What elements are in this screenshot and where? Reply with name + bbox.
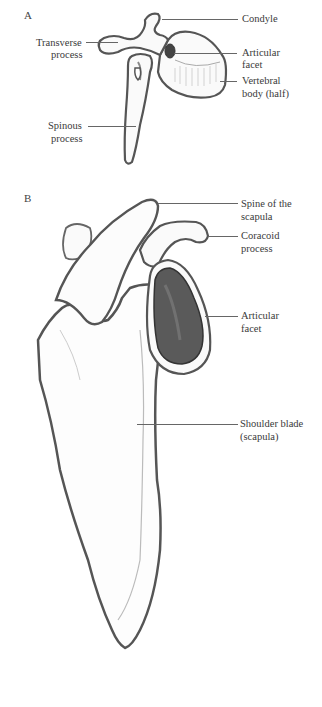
label-articular-b-2: facet <box>241 323 261 335</box>
panel-a-vertebra: A Condyle Transverse process Articular f… <box>0 0 322 180</box>
label-articular-a-2: facet <box>242 59 262 71</box>
label-spine-1: Spine of the <box>241 198 292 210</box>
label-spine-2: scapula <box>241 211 273 223</box>
leader-spine <box>158 203 238 204</box>
scapula-drawing <box>0 180 322 707</box>
leader-shoulder-blade <box>137 424 238 425</box>
leader-spinous <box>88 126 136 127</box>
label-shoulder-blade-1: Shoulder blade <box>240 418 303 430</box>
leader-articular-a <box>174 53 237 54</box>
leader-condyle <box>162 19 238 20</box>
label-articular-b-1: Articular <box>241 310 279 322</box>
label-articular-a-1: Articular <box>242 47 280 59</box>
label-coracoid-1: Coracoid <box>241 230 280 242</box>
leader-articular-b <box>205 316 238 317</box>
label-spinous-2: process <box>51 133 83 145</box>
leader-coracoid <box>208 236 238 237</box>
label-transverse-1: Transverse <box>36 37 82 49</box>
label-vertebral-body-2: body (half) <box>242 88 289 100</box>
label-spinous-1: Spinous <box>48 120 82 132</box>
label-shoulder-blade-2: (scapula) <box>240 431 278 443</box>
leader-transverse <box>86 42 118 43</box>
label-coracoid-2: process <box>241 243 273 255</box>
label-transverse-2: process <box>51 49 83 61</box>
label-condyle: Condyle <box>242 13 278 25</box>
label-vertebral-body-1: Vertebral <box>242 75 280 87</box>
panel-b-scapula: B Spine of the scapula Coracoid process … <box>0 180 322 707</box>
leader-vertebral-body <box>220 81 237 82</box>
